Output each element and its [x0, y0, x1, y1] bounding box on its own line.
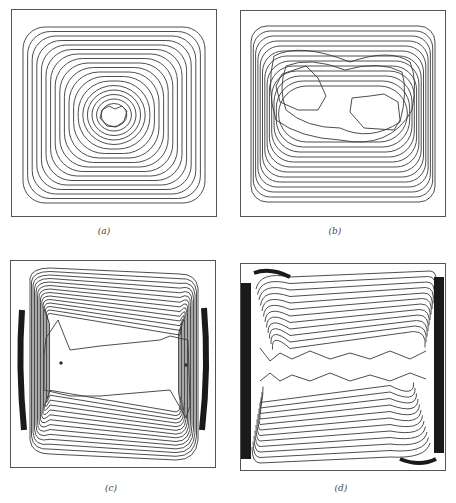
caption-c: (c): [91, 483, 131, 493]
caption-a: (a): [84, 226, 124, 236]
contour-plot-a: [11, 9, 217, 217]
panel-c: [10, 260, 216, 468]
contour-plot-c: [10, 260, 216, 468]
panel-b: [240, 10, 446, 217]
panel-a: [11, 9, 217, 217]
caption-b: (b): [315, 226, 355, 236]
caption-d: (d): [321, 483, 361, 493]
contour-plot-b: [240, 10, 446, 217]
panel-d: [240, 263, 446, 471]
contour-plot-d: [240, 263, 446, 471]
